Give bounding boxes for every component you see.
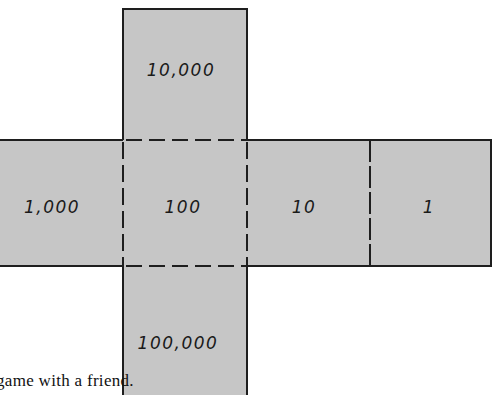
top-face-top-edge xyxy=(122,8,248,10)
fold-line-center-left xyxy=(122,142,124,265)
fold-line-center-top xyxy=(126,139,246,141)
face-label-left: 1,000 xyxy=(24,197,80,217)
fold-line-right xyxy=(369,140,371,266)
caption-text: game with a friend. xyxy=(0,371,134,391)
face-label-center: 100 xyxy=(165,197,202,217)
strip-right-edge xyxy=(490,139,492,267)
face-label-top: 10,000 xyxy=(147,60,215,80)
face-label-far-right: 1 xyxy=(423,197,435,217)
top-face-left-edge xyxy=(122,8,124,140)
bottom-face-right-edge xyxy=(246,265,248,395)
strip-top-edge-left xyxy=(0,139,123,141)
face-label-right: 10 xyxy=(292,197,317,217)
fold-line-center-right xyxy=(246,142,248,265)
face-label-bottom: 100,000 xyxy=(138,333,219,353)
top-face-right-edge xyxy=(246,8,248,140)
face-bottom-panel xyxy=(123,265,248,395)
fold-line-center-bottom xyxy=(126,265,246,267)
strip-bottom-edge-left xyxy=(0,265,123,267)
